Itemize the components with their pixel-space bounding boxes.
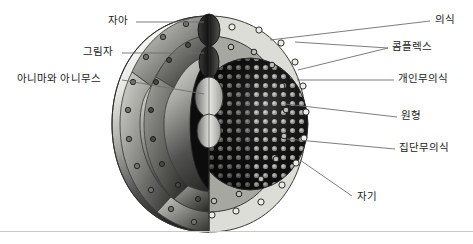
label-complex: 콤플렉스 — [392, 41, 432, 52]
leader-self — [300, 160, 352, 196]
leader-complex-a — [295, 42, 388, 48]
label-self: 자기 — [357, 191, 377, 202]
label-personal-unconscious: 개인무의식 — [398, 73, 449, 84]
diagram-page: 자아 그림자 아니마와 아니무스 의식 콤플렉스 개인무의식 원형 집단무의식 … — [0, 0, 473, 244]
leader-consciousness — [270, 21, 430, 40]
label-archetype: 원형 — [401, 110, 421, 121]
label-ego: 자아 — [108, 15, 128, 26]
label-consciousness: 의식 — [435, 14, 455, 25]
leader-complex-b — [298, 48, 388, 70]
label-collective-unconscious: 집단무의식 — [399, 142, 450, 153]
psyche-diagram — [0, 0, 473, 244]
label-anima-animus: 아니마와 아니무스 — [17, 73, 101, 84]
label-shadow: 그림자 — [83, 46, 113, 57]
